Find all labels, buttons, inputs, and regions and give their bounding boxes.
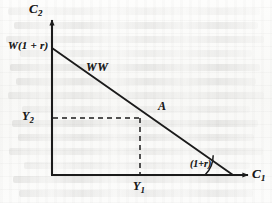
budget-line-ww — [52, 48, 233, 175]
slope-angle-label: (1+r) — [190, 159, 211, 169]
y-axis-label: C2 — [29, 2, 42, 15]
y1-tick-label-subscript: 1 — [141, 186, 145, 195]
y1-tick-label-text: Y — [133, 179, 140, 193]
figure-container: C2 C1 W(1 + r) WW A Y2 Y1 (1+r) — [0, 0, 272, 203]
x-axis-label-subscript: 1 — [261, 173, 265, 183]
point-a-label: A — [158, 100, 166, 112]
y2-tick-label: Y2 — [22, 110, 33, 122]
x-axis-label-text: C — [252, 166, 261, 181]
budget-constraint-diagram — [0, 0, 272, 203]
y2-tick-label-text: Y — [22, 109, 29, 123]
y2-tick-label-subscript: 2 — [30, 116, 34, 125]
vertical-intercept-label: W(1 + r) — [8, 40, 48, 51]
y1-tick-label: Y1 — [133, 180, 144, 192]
y-axis-label-subscript: 2 — [38, 8, 42, 18]
x-axis-label: C1 — [252, 167, 265, 180]
budget-line-label: WW — [86, 61, 109, 73]
y-axis-label-text: C — [29, 1, 38, 16]
